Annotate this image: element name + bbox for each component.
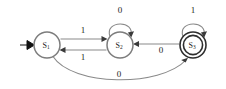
transition-s1-to-s2-arrowhead bbox=[102, 36, 108, 42]
start-arrow-icon bbox=[20, 41, 35, 50]
state-s2-subscript: 2 bbox=[120, 44, 123, 50]
transition-label-s2-self-loop: 0 bbox=[118, 5, 123, 15]
state-s1[interactable]: S1 bbox=[34, 32, 60, 58]
transition-label-s3-self-loop: 1 bbox=[191, 5, 196, 15]
transition-s1-to-s2 bbox=[61, 36, 108, 42]
transition-label-s3-to-s2: 0 bbox=[159, 45, 164, 55]
transition-label-s1-to-s3: 0 bbox=[117, 69, 122, 79]
transition-s3-to-s2 bbox=[133, 41, 180, 47]
transition-s1-to-s3-arrowhead bbox=[181, 58, 188, 63]
state-s3-subscript: 3 bbox=[193, 44, 196, 50]
transition-label-s1-to-s2: 1 bbox=[81, 25, 86, 35]
state-s3-accepting[interactable]: S3 bbox=[180, 32, 206, 58]
transition-label-s2-to-s1: 1 bbox=[81, 52, 86, 62]
fsm-diagram-canvas: S1 S2 S3 1 1 0 1 0 0 bbox=[0, 0, 226, 89]
transition-s3-to-s2-arrowhead bbox=[133, 41, 139, 47]
state-s2[interactable]: S2 bbox=[107, 32, 133, 58]
fsm-svg-root: S1 S2 S3 1 1 0 1 0 0 bbox=[0, 0, 226, 89]
state-s1-subscript: 1 bbox=[47, 44, 50, 50]
